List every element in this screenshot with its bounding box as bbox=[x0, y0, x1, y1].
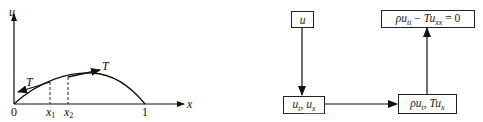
box-displacement: u bbox=[291, 11, 314, 28]
box-displacement-text: u bbox=[300, 14, 306, 26]
origin-label: 0 bbox=[11, 105, 17, 119]
x-axis-label: x bbox=[186, 97, 193, 111]
x2-label: x2 bbox=[63, 105, 73, 120]
end-label: 1 bbox=[142, 105, 148, 119]
string-curve bbox=[14, 73, 145, 104]
box-momentum-force: ρut, Tux bbox=[398, 94, 457, 114]
x1-label: x1 bbox=[45, 105, 55, 120]
tension-arrow-left bbox=[18, 82, 50, 92]
box-momentum-force-text: ρut, Tux bbox=[410, 97, 444, 112]
box-wave-equation-text: ρutt − Tuxx = 0 bbox=[396, 12, 461, 27]
u-axis-label: u bbox=[9, 5, 15, 19]
box-derivatives: ut, ux bbox=[283, 96, 325, 114]
box-wave-equation: ρutt − Tuxx = 0 bbox=[381, 10, 475, 28]
accent-underline bbox=[304, 113, 324, 114]
box-derivatives-text: ut, ux bbox=[292, 98, 315, 113]
tension-label-right: T bbox=[102, 59, 110, 73]
